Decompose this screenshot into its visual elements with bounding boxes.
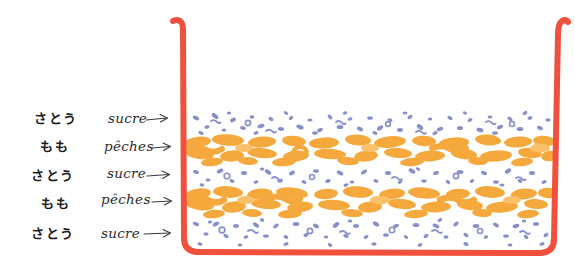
jar-bottom [197, 252, 541, 253]
row-3-french: sucre [107, 165, 146, 181]
illustration-canvas: さとう sucre もも pêches さとう sucre [0, 0, 575, 272]
row-5-japanese: さとう [31, 226, 75, 241]
row-4-french: pêches [101, 191, 151, 207]
label-row-2: もも pêches [40, 138, 171, 154]
row-4-japanese: もも [41, 196, 70, 211]
row-5-french: sucre [101, 225, 140, 241]
row-2-japanese: もも [40, 139, 69, 154]
row-2-french: pêches [104, 138, 154, 154]
row-3-japanese: さとう [31, 168, 75, 183]
row-1-french: sucre [108, 110, 147, 126]
row-1-japanese: さとう [34, 111, 78, 126]
